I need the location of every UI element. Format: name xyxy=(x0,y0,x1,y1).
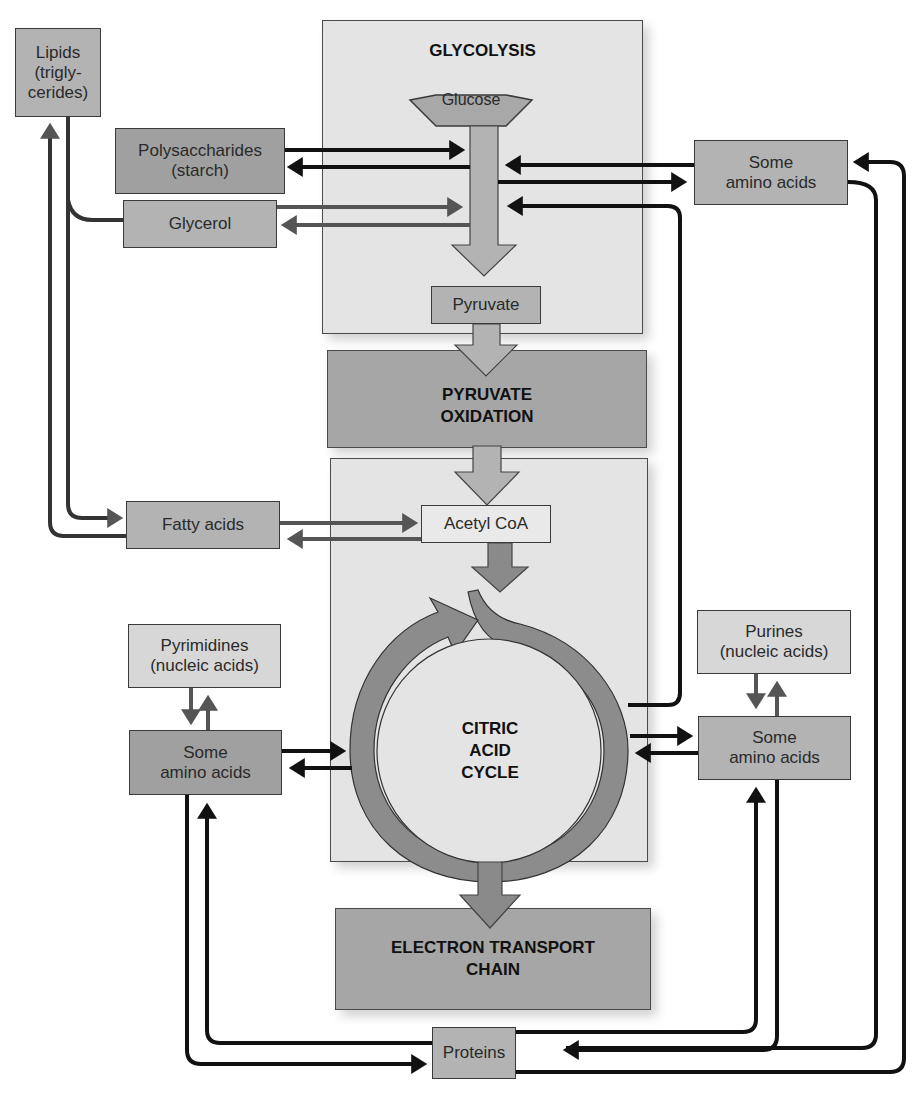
amino-acids-left-box: Some amino acids xyxy=(129,730,282,795)
lipids-line3: cerides) xyxy=(28,83,88,103)
pyrimidines-box: Pyrimidines (nucleic acids) xyxy=(128,624,281,688)
glycerol-box: Glycerol xyxy=(123,200,277,248)
amino-right-line1: Some xyxy=(752,728,796,748)
amino-left-line2: amino acids xyxy=(160,763,251,783)
citric-acid-line2: ACID xyxy=(410,740,570,762)
pyrimidines-line1: Pyrimidines xyxy=(161,636,249,656)
pyruvate-oxidation-line1: PYRUVATE xyxy=(327,384,647,406)
electron-transport-chain-title: ELECTRON TRANSPORT CHAIN xyxy=(335,937,651,981)
amino-top-line2: amino acids xyxy=(726,173,817,193)
lipids-line1: Lipids xyxy=(36,43,80,63)
amino-acids-top-box: Some amino acids xyxy=(694,140,848,205)
glycolysis-title: GLYCOLYSIS xyxy=(322,40,643,62)
glucose-label: Glucose xyxy=(410,91,532,109)
pyruvate-box: Pyruvate xyxy=(431,286,541,324)
pyruvate-label: Pyruvate xyxy=(452,295,519,315)
amino-right-line2: amino acids xyxy=(729,748,820,768)
proteins-box: Proteins xyxy=(432,1027,516,1079)
lipids-to-fatty-acids-connector xyxy=(68,116,120,518)
lipids-box: Lipids (trigly- cerides) xyxy=(15,28,101,117)
lipids-line2: (trigly- xyxy=(34,63,81,83)
proteins-label: Proteins xyxy=(443,1043,505,1063)
pyruvate-oxidation-line2: OXIDATION xyxy=(327,406,647,428)
amino-acids-right-box: Some amino acids xyxy=(698,716,851,780)
metabolism-diagram: GLYCOLYSIS PYRUVATE OXIDATION CITRIC ACI… xyxy=(0,0,922,1098)
fatty-acids-label: Fatty acids xyxy=(162,515,244,535)
acetyl-coa-to-cycle-arrow xyxy=(472,543,528,592)
amino-left-line1: Some xyxy=(183,743,227,763)
oxidation-to-acetyl-coa-arrow xyxy=(455,446,519,505)
pyruvate-oxidation-title: PYRUVATE OXIDATION xyxy=(327,384,647,428)
etc-line2: CHAIN xyxy=(335,959,651,981)
polysaccharides-box: Polysaccharides (starch) xyxy=(115,128,285,194)
citric-acid-cycle-title: CITRIC ACID CYCLE xyxy=(410,718,570,784)
pyruvate-to-oxidation-arrow xyxy=(455,324,517,376)
glycerol-label: Glycerol xyxy=(169,214,231,234)
acetyl-coa-label: Acetyl CoA xyxy=(444,514,528,534)
purines-line2: (nucleic acids) xyxy=(720,642,829,662)
purines-box: Purines (nucleic acids) xyxy=(697,610,851,674)
polysaccharides-line1: Polysaccharides xyxy=(138,141,262,161)
amino-top-line1: Some xyxy=(749,153,793,173)
citric-acid-line3: CYCLE xyxy=(410,762,570,784)
purines-line1: Purines xyxy=(745,622,803,642)
lipids-to-glycerol-connector xyxy=(68,200,124,220)
acetyl-coa-box: Acetyl CoA xyxy=(421,505,551,543)
polysaccharides-line2: (starch) xyxy=(171,161,229,181)
etc-line1: ELECTRON TRANSPORT xyxy=(335,937,651,959)
pyrimidines-line2: (nucleic acids) xyxy=(150,656,259,676)
citric-acid-line1: CITRIC xyxy=(410,718,570,740)
fatty-acids-box: Fatty acids xyxy=(126,501,280,549)
